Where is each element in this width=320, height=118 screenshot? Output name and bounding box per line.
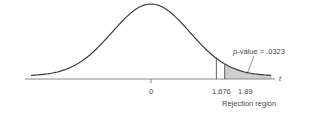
- density-curve: [31, 4, 271, 75]
- axis-variable-label: t: [279, 75, 281, 83]
- tick-label-critical: 1.676: [212, 88, 231, 96]
- pvalue-label: p-value = .0323: [233, 48, 285, 56]
- rejection-region-label: Rejection region: [222, 100, 276, 108]
- pvalue-rest: -value = .0323: [237, 47, 285, 56]
- tick-label-statistic: 1.89: [238, 88, 253, 96]
- tick-label-zero: 0: [149, 88, 153, 96]
- p-value-leader-line: [247, 56, 254, 74]
